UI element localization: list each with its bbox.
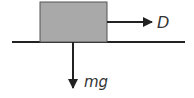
block [40,2,107,42]
weight-force-label: mg [84,73,108,91]
free-body-diagram: D mg [0,0,194,98]
drive-force-label: D [157,13,169,32]
